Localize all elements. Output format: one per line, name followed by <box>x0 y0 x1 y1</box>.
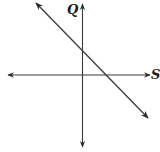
coordinate-diagram: Q S <box>0 0 160 152</box>
vertical-axis-label: Q <box>67 3 78 16</box>
downward-sloping-line <box>36 3 148 118</box>
diagram-canvas <box>0 0 160 152</box>
horizontal-axis-label: S <box>151 68 160 81</box>
